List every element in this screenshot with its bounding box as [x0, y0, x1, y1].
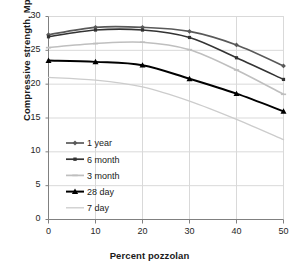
x-tick-label: 50 [271, 226, 297, 236]
legend-entry-3-month[interactable]: 3 month [66, 171, 120, 181]
legend-label: 3 month [87, 171, 120, 181]
legend-label: 6 month [87, 155, 120, 165]
series-point-marker-diamond [234, 43, 239, 48]
series-3-month [46, 41, 286, 95]
legend-label: 1 year [87, 138, 112, 148]
y-tick-label: 25 [15, 44, 41, 54]
y-tick-label: 10 [15, 145, 41, 155]
legend-swatch-marker-dash [72, 175, 77, 177]
series-point-marker-dash [93, 43, 98, 45]
legend-swatch-marker-square [73, 158, 76, 161]
x-tick-label: 20 [130, 226, 156, 236]
series-point-marker-square [47, 35, 50, 38]
legend-entry-6-month[interactable]: 6 month [66, 155, 120, 165]
legend-swatch-marker-diamond [72, 140, 77, 145]
y-tick-label: 0 [15, 213, 41, 223]
legend-label: 28 day [87, 187, 115, 197]
series-line [49, 77, 284, 139]
y-tick-label: 20 [15, 78, 41, 88]
series-point-marker-square [235, 56, 238, 59]
series-point-marker-square [282, 78, 285, 81]
data-series-layer [46, 25, 287, 140]
legend-entry-28-day[interactable]: 28 day [66, 187, 115, 197]
x-tick-label: 30 [177, 226, 203, 236]
legend-label: 7 day [87, 203, 110, 213]
series-point-marker-diamond [187, 29, 192, 34]
chart-legend: 1 year6 month3 month28 day7 day [66, 138, 120, 213]
series-point-marker-dash [140, 41, 145, 43]
series-point-marker-square [188, 36, 191, 39]
legend-entry-7-day[interactable]: 7 day [66, 203, 110, 213]
series-point-marker-diamond [281, 63, 286, 68]
series-line [49, 60, 284, 111]
series-point-marker-dash [187, 49, 192, 51]
x-axis-title: Percent pozzolan [0, 250, 299, 261]
series-point-marker-square [94, 28, 97, 31]
series-point-marker-dash [281, 94, 286, 96]
series-point-marker-dash [234, 69, 239, 71]
x-tick-label: 10 [83, 226, 109, 236]
x-tick-label: 40 [224, 226, 250, 236]
series-28-day [46, 57, 287, 113]
y-tick-label: 15 [15, 112, 41, 122]
series-point-marker-dash [46, 47, 51, 49]
compressive-strength-chart: Compressive strength, Mpa Percent pozzol… [0, 0, 299, 269]
x-tick-label: 0 [36, 226, 62, 236]
series-7-day [49, 77, 284, 139]
gridlines [49, 17, 284, 220]
series-6-month [47, 28, 285, 81]
series-point-marker-square [141, 28, 144, 31]
legend-entry-1-year[interactable]: 1 year [66, 138, 112, 148]
y-tick-label: 30 [15, 10, 41, 20]
y-tick-label: 5 [15, 179, 41, 189]
